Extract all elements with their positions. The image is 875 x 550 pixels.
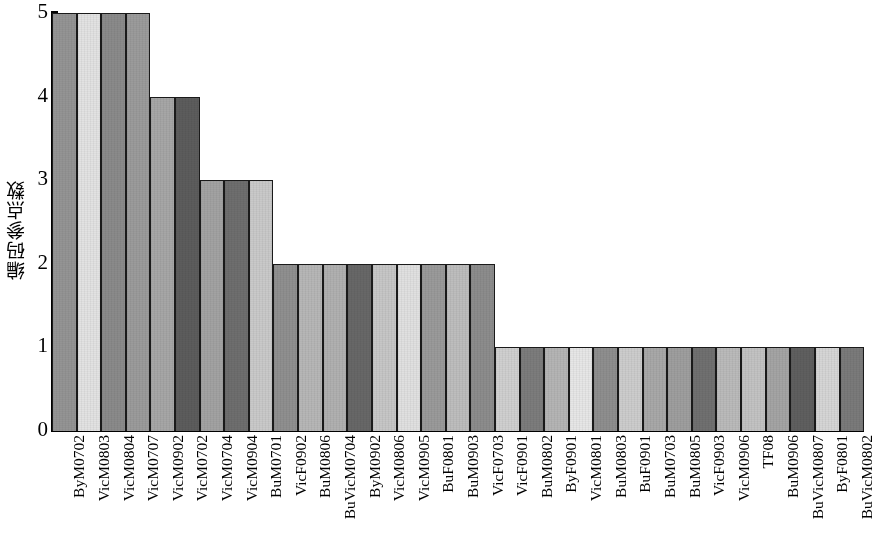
x-axis-label-cell: BuF0801 (421, 433, 446, 550)
bar (200, 180, 225, 431)
y-axis-title: 编码参点数 (2, 120, 32, 340)
bar (446, 264, 471, 431)
bar (741, 347, 766, 431)
x-axis-labels: ByM0702VicM0803VicM0804VicM0707VicM0902V… (52, 433, 864, 550)
bar (421, 264, 446, 431)
x-axis-label-cell: ByF0801 (815, 433, 840, 550)
y-axis-tick-label: 1 (0, 335, 48, 356)
x-axis-label-cell: BuM0803 (593, 433, 618, 550)
x-axis-label-cell: VicM0905 (397, 433, 422, 550)
bar (273, 264, 298, 431)
plot-area (52, 12, 864, 431)
y-axis-tick-label: 3 (0, 168, 48, 189)
bar (495, 347, 520, 431)
bar (815, 347, 840, 431)
bar (716, 347, 741, 431)
bar (224, 180, 249, 431)
x-axis-label-cell: VicM0704 (200, 433, 225, 550)
x-axis-label-cell: BuM0703 (643, 433, 668, 550)
bar (643, 347, 668, 431)
x-axis-label-cell: VicF0903 (692, 433, 717, 550)
bar (593, 347, 618, 431)
bar (249, 180, 274, 431)
x-axis-label-cell: BuM0701 (249, 433, 274, 550)
x-axis-label-cell: VicM0806 (372, 433, 397, 550)
x-axis-label-cell: VicM0707 (126, 433, 151, 550)
bar (766, 347, 791, 431)
x-axis-label-cell: VicM0904 (224, 433, 249, 550)
x-axis-label-cell: BuF0901 (618, 433, 643, 550)
y-axis-tick-label: 0 (0, 419, 48, 440)
x-axis-label-cell: VicF0902 (273, 433, 298, 550)
x-axis-label-cell: BuM0802 (520, 433, 545, 550)
x-axis-label-cell: VicM0906 (716, 433, 741, 550)
x-axis-label-cell: ByM0902 (347, 433, 372, 550)
x-axis-label-cell: BuVicM0802 (840, 433, 865, 550)
x-axis-label-cell: VicM0804 (101, 433, 126, 550)
bar (150, 97, 175, 431)
bar (52, 13, 77, 431)
x-axis-label-cell: BuM0805 (667, 433, 692, 550)
x-axis-label-cell: BuM0906 (766, 433, 791, 550)
x-axis-label-cell: VicM0902 (150, 433, 175, 550)
bar (126, 13, 151, 431)
bar (569, 347, 594, 431)
x-axis-label-cell: BuM0806 (298, 433, 323, 550)
y-axis-tick-label: 5 (0, 1, 48, 22)
bar (372, 264, 397, 431)
x-axis-label-cell: VicM0702 (175, 433, 200, 550)
bar (323, 264, 348, 431)
x-axis-tick-label: BuVicM0802 (859, 435, 875, 519)
y-axis-tick-label: 2 (0, 252, 48, 273)
bar (544, 347, 569, 431)
bar (790, 347, 815, 431)
x-axis-label-cell: TF08 (741, 433, 766, 550)
bar (101, 13, 126, 431)
x-axis-label-cell: ByF0901 (544, 433, 569, 550)
bar (618, 347, 643, 431)
x-axis-label-cell: BuVicM0807 (790, 433, 815, 550)
bar (77, 13, 102, 431)
x-axis-label-cell: BuM0903 (446, 433, 471, 550)
x-axis-label-cell: VicF0703 (470, 433, 495, 550)
bar (397, 264, 422, 431)
bar (840, 347, 865, 431)
bar (470, 264, 495, 431)
y-axis-tick-label: 4 (0, 85, 48, 106)
bar (520, 347, 545, 431)
bar (175, 97, 200, 431)
bar (347, 264, 372, 431)
x-axis-label-cell: VicF0901 (495, 433, 520, 550)
x-axis-label-cell: BuVicM0704 (323, 433, 348, 550)
x-axis-label-cell: ByM0702 (52, 433, 77, 550)
x-axis-label-cell: VicM0801 (569, 433, 594, 550)
bar (692, 347, 717, 431)
bar (298, 264, 323, 431)
x-axis-label-cell: VicM0803 (77, 433, 102, 550)
bar (667, 347, 692, 431)
